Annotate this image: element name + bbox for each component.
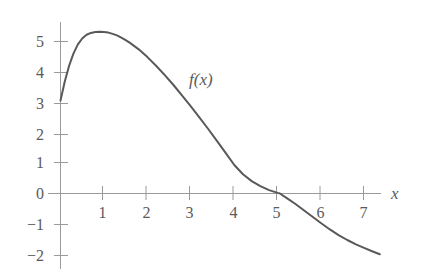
x-tick-label-3: 3 (173, 205, 206, 221)
y-tick-label-1: 1 (12, 155, 44, 171)
x-tick-label-7: 7 (347, 205, 380, 221)
y-tick-label-3: 3 (12, 96, 44, 112)
x-axis-label: x (391, 185, 399, 202)
y-tick-label-5: 5 (12, 34, 44, 50)
plot-area (0, 0, 425, 274)
curve-label-fx: f(x) (189, 71, 213, 88)
x-tick-label-6: 6 (304, 205, 337, 221)
y-tick-label-neg2: −2 (4, 248, 44, 264)
x-tick-label-4: 4 (217, 205, 250, 221)
y-tick-label-4: 4 (12, 65, 44, 81)
x-tick-label-5: 5 (260, 205, 293, 221)
y-tick-label-neg1: −1 (4, 217, 44, 233)
x-tick-label-2: 2 (130, 205, 163, 221)
y-tick-label-0: 0 (12, 186, 44, 202)
chart-figure: 5 4 3 2 1 0 −1 −2 1 2 3 4 5 6 7 x f(x) (0, 0, 425, 274)
x-tick-label-1: 1 (86, 205, 119, 221)
y-tick-label-2: 2 (12, 127, 44, 143)
